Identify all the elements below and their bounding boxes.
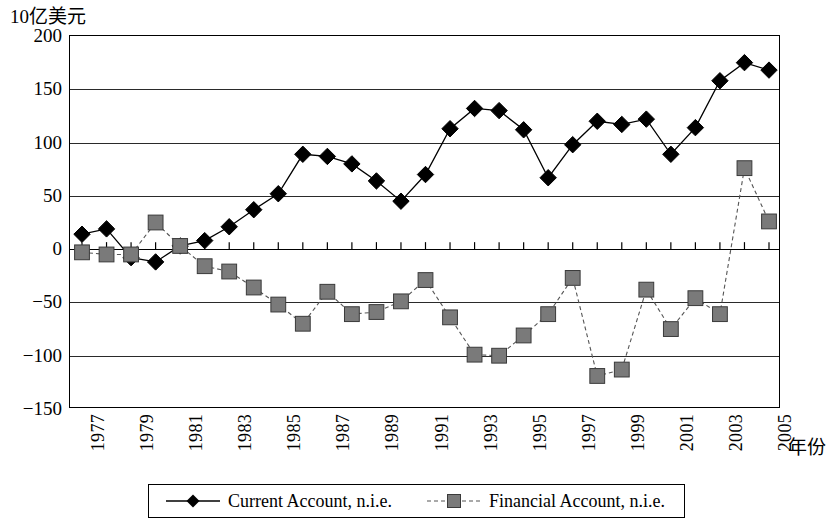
x-tick-label: 1979 <box>138 414 156 451</box>
data-point-marker <box>147 254 163 270</box>
data-point-marker <box>319 148 335 164</box>
chart-legend: Current Account, n.i.e.Financial Account… <box>148 484 685 518</box>
y-axis-unit-label: 10亿美元 <box>10 6 86 27</box>
data-point-marker <box>295 316 310 331</box>
y-tick-label: 200 <box>0 26 62 45</box>
legend-square-icon <box>426 493 482 509</box>
data-point-marker <box>74 226 90 242</box>
data-point-marker <box>712 73 728 89</box>
data-point-marker <box>246 202 262 218</box>
data-point-marker <box>197 259 212 274</box>
data-point-marker <box>688 291 703 306</box>
x-tick-label: 1997 <box>580 414 598 451</box>
x-tick-label: 1977 <box>89 414 107 451</box>
legend-entry: Financial Account, n.i.e. <box>426 492 665 510</box>
y-tick-label: 100 <box>0 133 62 152</box>
data-point-marker <box>369 305 384 320</box>
legend-label: Financial Account, n.i.e. <box>489 492 665 510</box>
chart-figure: 10亿美元 200150100500−50−100−150 1977197919… <box>0 0 833 521</box>
y-tick-label: −150 <box>0 399 62 418</box>
data-point-marker <box>222 264 237 279</box>
data-point-marker <box>124 247 139 262</box>
plot-area <box>69 35 780 408</box>
series-financial-account <box>75 161 777 384</box>
legend-label: Current Account, n.i.e. <box>228 492 392 510</box>
y-tick-label: 150 <box>0 79 62 98</box>
series-current-account <box>74 54 777 270</box>
series-line <box>82 168 769 376</box>
data-point-marker <box>196 232 212 248</box>
series-layer <box>70 36 781 409</box>
data-point-marker <box>368 173 384 189</box>
data-point-marker <box>639 282 654 297</box>
data-point-marker <box>221 219 237 235</box>
x-tick-label: 1981 <box>187 414 205 451</box>
data-point-marker <box>271 297 286 312</box>
x-tick-label: 1991 <box>433 414 451 451</box>
x-tick-label: 2003 <box>727 414 745 451</box>
data-point-marker <box>467 347 482 362</box>
data-point-marker <box>540 170 556 186</box>
data-point-marker <box>466 100 482 116</box>
y-tick-label: 0 <box>0 239 62 258</box>
x-axis-title: 年份 <box>788 438 826 457</box>
data-point-marker <box>173 239 188 254</box>
data-point-marker <box>762 214 777 229</box>
data-point-marker <box>492 348 507 363</box>
data-point-marker <box>736 54 752 70</box>
data-point-marker <box>565 271 580 286</box>
data-point-marker <box>148 215 163 230</box>
data-point-marker <box>295 146 311 162</box>
data-point-marker <box>320 284 335 299</box>
y-tick-label: 50 <box>0 186 62 205</box>
data-point-marker <box>590 369 605 384</box>
x-tick-label: 1987 <box>334 414 352 451</box>
data-point-marker <box>515 122 531 138</box>
data-point-marker <box>442 121 458 137</box>
data-point-marker <box>663 322 678 337</box>
series-line <box>82 63 769 262</box>
data-point-marker <box>614 116 630 132</box>
legend-entry: Current Account, n.i.e. <box>165 492 392 510</box>
data-point-marker <box>344 156 360 172</box>
x-tick-label: 1999 <box>629 414 647 451</box>
data-point-marker <box>344 307 359 322</box>
data-point-marker <box>246 280 261 295</box>
data-point-marker <box>638 111 654 127</box>
y-tick-label: −50 <box>0 292 62 311</box>
data-point-marker <box>761 62 777 78</box>
data-point-marker <box>394 294 409 309</box>
x-tick-label: 1995 <box>531 414 549 451</box>
x-tick-label: 1985 <box>285 414 303 451</box>
data-point-marker <box>713 307 728 322</box>
data-point-marker <box>737 161 752 176</box>
data-point-marker <box>99 247 114 262</box>
data-point-marker <box>516 328 531 343</box>
legend-diamond-icon <box>165 493 221 509</box>
data-point-marker <box>491 102 507 118</box>
data-point-marker <box>418 273 433 288</box>
data-point-marker <box>270 186 286 202</box>
x-tick-label: 2001 <box>678 414 696 451</box>
x-tick-label: 1989 <box>383 414 401 451</box>
y-tick-label: −100 <box>0 346 62 365</box>
data-point-marker <box>443 310 458 325</box>
x-tick-label: 1993 <box>482 414 500 451</box>
data-point-marker <box>75 245 90 260</box>
x-tick-label: 1983 <box>236 414 254 451</box>
data-point-marker <box>541 307 556 322</box>
data-point-marker <box>614 362 629 377</box>
